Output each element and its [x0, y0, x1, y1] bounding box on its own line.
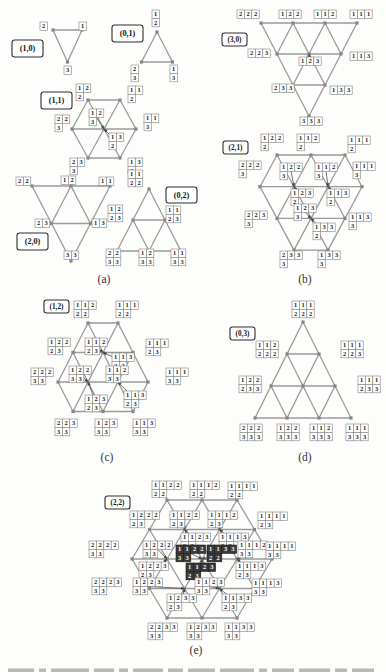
vertex-label: 1223	[108, 205, 123, 222]
svg-text:2: 2	[209, 554, 212, 561]
svg-text:1: 1	[254, 579, 257, 586]
svg-text:1: 1	[227, 623, 230, 630]
svg-text:1: 1	[290, 542, 293, 549]
svg-text:1: 1	[155, 339, 158, 346]
vertex-label: 333	[300, 117, 322, 125]
svg-text:2: 2	[91, 541, 94, 548]
svg-text:3: 3	[322, 223, 325, 230]
svg-text:3: 3	[261, 588, 264, 595]
svg-text:2: 2	[33, 368, 36, 375]
svg-text:1: 1	[236, 533, 239, 540]
svg-text:1: 1	[154, 10, 157, 17]
svg-text:3: 3	[142, 587, 145, 594]
svg-text:3: 3	[73, 251, 76, 258]
svg-text:3: 3	[172, 623, 175, 630]
svg-text:3: 3	[141, 391, 144, 398]
svg-text:1: 1	[185, 545, 188, 552]
svg-text:1: 1	[207, 481, 210, 488]
vertex-label: 222333	[240, 424, 262, 441]
svg-text:1: 1	[217, 511, 220, 518]
svg-text:2: 2	[110, 214, 113, 221]
svg-text:2: 2	[329, 198, 332, 205]
svg-text:3: 3	[367, 385, 370, 392]
svg-text:1: 1	[180, 249, 183, 256]
svg-text:2: 2	[254, 211, 257, 218]
svg-text:2: 2	[193, 545, 196, 552]
svg-text:2: 2	[40, 368, 43, 375]
svg-text:3: 3	[210, 563, 213, 570]
svg-text:1: 1	[141, 562, 144, 569]
svg-text:3: 3	[146, 123, 149, 130]
svg-text:2: 2	[288, 10, 291, 17]
svg-text:3: 3	[260, 562, 263, 569]
svg-text:2: 2	[64, 115, 67, 122]
svg-text:1: 1	[348, 424, 351, 431]
svg-text:3: 3	[367, 52, 370, 59]
vertex-label: 22	[16, 177, 31, 185]
svg-text:1: 1	[352, 10, 355, 17]
svg-text:3: 3	[279, 433, 282, 440]
svg-text:3: 3	[330, 223, 333, 230]
svg-text:3: 3	[157, 578, 160, 585]
svg-text:3: 3	[316, 57, 319, 64]
svg-text:(1,2): (1,2)	[50, 303, 64, 311]
svg-text:2: 2	[86, 366, 89, 373]
vertex-label: 122233	[239, 376, 261, 393]
svg-text:1: 1	[137, 86, 140, 93]
svg-text:2: 2	[224, 603, 227, 610]
svg-text:2: 2	[250, 49, 253, 56]
svg-text:3: 3	[178, 554, 181, 561]
svg-text:2: 2	[154, 511, 157, 518]
svg-text:3: 3	[168, 377, 171, 384]
subfigure-caption: (c)	[101, 451, 114, 464]
svg-text:2: 2	[308, 57, 311, 64]
svg-text:3: 3	[40, 377, 43, 384]
svg-text:1: 1	[359, 52, 362, 59]
svg-text:3: 3	[172, 74, 175, 81]
vertex-label: 13	[170, 65, 177, 82]
svg-text:3: 3	[242, 433, 245, 440]
svg-text:2: 2	[125, 310, 128, 317]
svg-text:1: 1	[247, 541, 250, 548]
svg-text:2: 2	[37, 219, 40, 226]
svg-text:3: 3	[320, 260, 323, 267]
svg-text:3: 3	[104, 428, 107, 435]
svg-text:1: 1	[130, 170, 133, 177]
svg-text:2: 2	[343, 350, 346, 357]
svg-text:2: 2	[350, 145, 353, 152]
vertex-label: 112	[314, 10, 336, 18]
svg-text:2: 2	[72, 158, 75, 165]
svg-text:1: 1	[293, 189, 296, 196]
svg-text:2: 2	[331, 10, 334, 17]
vertex-label: 111233	[358, 376, 380, 393]
svg-text:2: 2	[249, 424, 252, 431]
svg-text:1: 1	[324, 163, 327, 170]
svg-text:2: 2	[248, 161, 251, 168]
svg-text:3: 3	[57, 347, 60, 354]
svg-text:1: 1	[312, 424, 315, 431]
svg-text:1: 1	[172, 511, 175, 518]
svg-text:2: 2	[192, 490, 195, 497]
svg-text:1: 1	[301, 57, 304, 64]
svg-text:2: 2	[176, 594, 179, 601]
svg-text:2: 2	[98, 109, 101, 116]
svg-text:1: 1	[296, 204, 299, 211]
svg-text:2: 2	[332, 163, 335, 170]
vertex-label: 23	[35, 219, 50, 227]
svg-text:1: 1	[146, 114, 149, 121]
svg-text:3: 3	[115, 375, 118, 382]
panel-tag: (0,2)	[166, 187, 197, 203]
svg-text:2: 2	[262, 541, 265, 548]
vertex-label: 111	[350, 10, 372, 18]
svg-text:1: 1	[154, 481, 157, 488]
svg-text:2: 2	[273, 341, 276, 348]
svg-text:3: 3	[44, 219, 47, 226]
svg-text:2: 2	[241, 385, 244, 392]
svg-text:1: 1	[204, 578, 207, 585]
svg-text:2: 2	[263, 143, 266, 150]
svg-text:1: 1	[231, 594, 234, 601]
svg-text:2: 2	[237, 491, 240, 498]
svg-text:3: 3	[152, 550, 155, 557]
svg-text:1: 1	[365, 136, 368, 143]
panel-tag: (0,1)	[112, 25, 143, 42]
